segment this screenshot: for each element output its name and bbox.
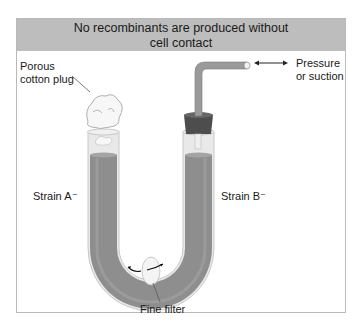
- strain-a-label: Strain A⁻: [33, 190, 78, 203]
- strain-b-label: Strain B⁻: [221, 190, 266, 203]
- plug-label-line-1: Porous: [20, 60, 74, 73]
- filter-disc-icon: [0, 0, 357, 322]
- filter-label: Fine filter: [140, 303, 185, 316]
- plug-label: Porous cotton plug: [20, 60, 74, 86]
- pressure-label-line-2: or suction: [296, 70, 344, 83]
- plug-label-line-2: cotton plug: [20, 73, 74, 86]
- pressure-label-line-1: Pressure: [296, 57, 344, 70]
- pressure-label: Pressure or suction: [296, 57, 344, 83]
